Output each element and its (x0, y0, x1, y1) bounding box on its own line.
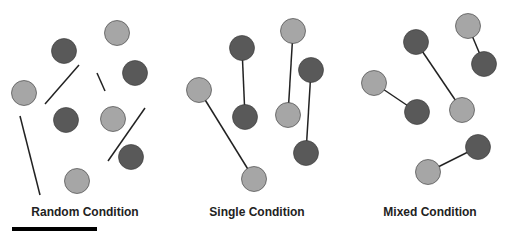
light-circle (416, 160, 441, 185)
scale-bar (12, 227, 97, 231)
connector-line (45, 65, 79, 104)
diagram-canvas (0, 0, 507, 231)
random-condition-label: Random Condition (0, 205, 170, 219)
light-circle (65, 169, 90, 194)
single-condition-panel (187, 19, 324, 192)
dark-circle (472, 52, 497, 77)
single-condition-label: Single Condition (172, 205, 342, 219)
random-condition-panel (12, 21, 148, 196)
dark-circle (52, 39, 77, 64)
light-circle (101, 107, 126, 132)
dark-circle (54, 108, 79, 133)
light-circle (105, 21, 130, 46)
light-circle (12, 81, 37, 106)
light-circle (362, 71, 387, 96)
dark-circle (405, 100, 430, 125)
dark-circle (299, 58, 324, 83)
light-circle (242, 167, 267, 192)
light-circle (276, 103, 301, 128)
dark-circle (466, 135, 491, 160)
dark-circle (119, 145, 144, 170)
connector-line (97, 73, 105, 91)
light-circle (187, 78, 212, 103)
dark-circle (230, 36, 255, 61)
mixed-condition-label: Mixed Condition (345, 205, 507, 219)
dark-circle (404, 30, 429, 55)
connector-line (20, 116, 40, 195)
light-circle (456, 14, 481, 39)
light-circle (281, 19, 306, 44)
dark-circle (123, 61, 148, 86)
light-circle (450, 98, 475, 123)
dark-circle (233, 105, 258, 130)
connector-line (199, 90, 254, 179)
dark-circle (294, 141, 319, 166)
mixed-condition-panel (362, 14, 497, 185)
